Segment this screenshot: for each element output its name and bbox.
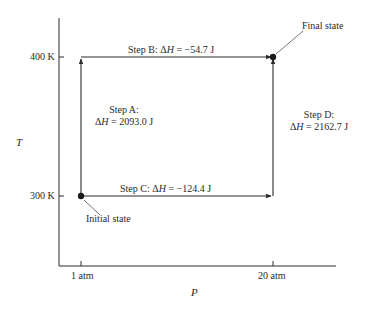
step-d-title: Step D: [279,109,359,121]
final-state-leader [276,31,303,54]
step-a-label: Step A: ΔH = 2093.0 J [88,104,160,128]
y-tick-label-300k: 300 K [30,190,55,202]
y-axis-label: T [16,136,22,148]
step-a-value: ΔH = 2093.0 J [88,116,160,128]
step-d-value: ΔH = 2162.7 J [279,121,359,133]
step-a-title: Step A: [88,104,160,116]
initial-state-dot [78,193,84,199]
step-b-label: Step B: ΔH = −54.7 J [128,44,214,56]
step-c-label: Step C: ΔH = −124.4 J [120,183,211,195]
final-state-dot [270,54,276,60]
step-d-label: Step D: ΔH = 2162.7 J [279,109,359,133]
final-state-label: Final state [302,20,343,32]
y-tick-label-400k: 400 K [30,51,55,63]
initial-state-label: Initial state [86,213,131,225]
x-tick-label-20atm: 20 atm [258,270,286,282]
x-tick-label-1atm: 1 atm [71,270,94,282]
x-axis-label: P [191,286,198,298]
